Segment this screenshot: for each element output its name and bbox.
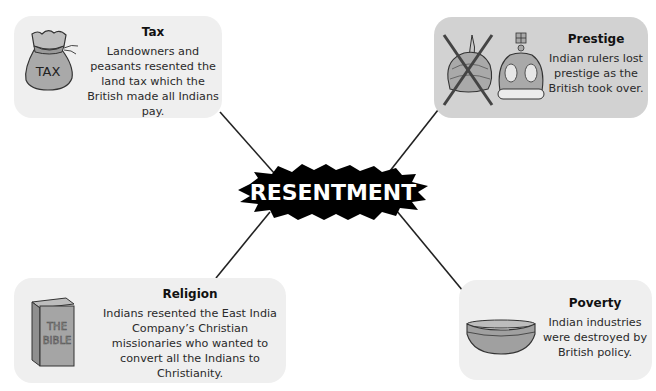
money-bag-icon: TAX <box>20 28 78 92</box>
crown-icon <box>498 33 544 99</box>
card-title: Poverty <box>541 296 649 311</box>
card-title: Tax <box>84 25 222 40</box>
connector-poverty <box>396 210 463 291</box>
card-tax: TAX Tax Landowners and peasants resented… <box>14 16 222 118</box>
card-body: Indians resented the East India Company’… <box>96 306 284 381</box>
card-religion-text: Religion Indians resented the East India… <box>96 287 284 381</box>
svg-text:TAX: TAX <box>35 64 61 79</box>
svg-text:THE: THE <box>46 321 67 332</box>
bowl-icon <box>463 318 539 358</box>
crossed-out-turban-icon <box>444 35 492 105</box>
card-prestige: Prestige Indian rulers lost prestige as … <box>434 17 648 118</box>
prestige-icons <box>438 29 548 109</box>
card-poverty: Poverty Indian industries were destroyed… <box>459 280 652 380</box>
card-religion: THE BIBLE Religion Indians resented the … <box>14 278 286 383</box>
card-body: Indian industries were destroyed by Brit… <box>541 315 649 360</box>
card-body: Landowners and peasants resented the lan… <box>84 44 222 119</box>
card-title: Religion <box>96 287 284 302</box>
bible-icon: THE BIBLE <box>28 296 78 368</box>
card-poverty-text: Poverty Indian industries were destroyed… <box>541 296 649 360</box>
card-body: Indian rulers lost prestige as the Briti… <box>548 51 644 96</box>
card-tax-text: Tax Landowners and peasants resented the… <box>84 25 222 119</box>
central-label: RESENTMENT <box>236 162 430 222</box>
svg-text:BIBLE: BIBLE <box>43 335 72 346</box>
card-prestige-text: Prestige Indian rulers lost prestige as … <box>548 32 644 96</box>
card-title: Prestige <box>548 32 644 47</box>
